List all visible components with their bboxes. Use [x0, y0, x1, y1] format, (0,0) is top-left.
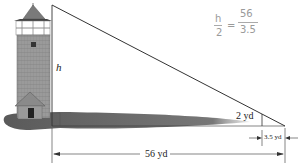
- stick-shadow-label: 3.5 yd: [264, 133, 282, 141]
- tower-height-label: h: [56, 61, 62, 73]
- hand-fraction-bar-right: [238, 22, 258, 23]
- hand-den-right: 3.5: [240, 24, 256, 35]
- tower-illustration: [14, 3, 52, 119]
- diagram-canvas: h 2 yd 3.5 yd 56 yd h 2 = 56 3.5: [0, 0, 301, 163]
- hand-den-left: 2: [216, 27, 222, 38]
- hand-num-left: h: [215, 13, 221, 24]
- stick-height-label: 2 yd: [236, 110, 254, 121]
- total-shadow-label: 56 yd: [143, 148, 170, 159]
- hand-num-right: 56: [240, 8, 253, 19]
- hand-fraction-bar-left: [214, 25, 222, 26]
- hand-equals: =: [227, 20, 235, 31]
